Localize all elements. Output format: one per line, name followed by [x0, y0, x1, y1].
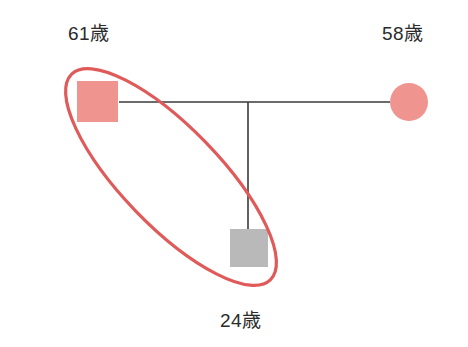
- age-label-father: 61歳: [68, 18, 110, 45]
- person-child-square: [230, 229, 268, 267]
- highlight-ellipse-icon: [36, 40, 305, 314]
- pedigree-graphics: [0, 0, 468, 347]
- pedigree-diagram: 61歳 58歳 24歳: [0, 0, 468, 347]
- age-label-child: 24歳: [220, 305, 262, 332]
- person-father-square: [77, 81, 118, 122]
- age-label-mother: 58歳: [382, 18, 424, 45]
- person-mother-circle: [390, 83, 428, 121]
